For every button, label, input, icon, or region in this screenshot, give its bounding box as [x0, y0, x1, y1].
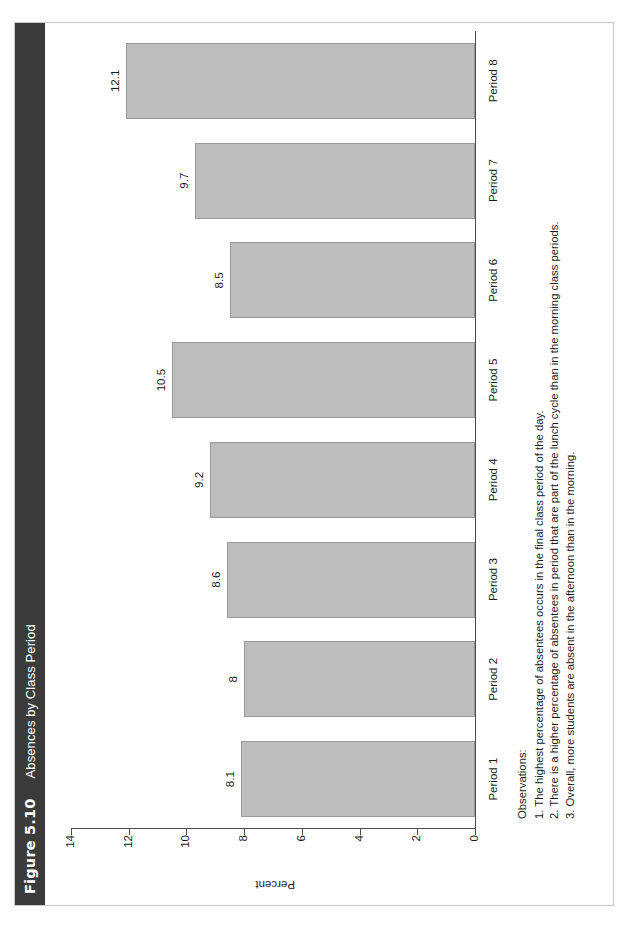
y-tick-label: 4 — [354, 835, 366, 841]
y-tick-mark — [244, 829, 245, 835]
chart-plot-area: Percent 02468101214 8.1Period 18Period 2… — [45, 23, 613, 905]
bar[interactable] — [210, 442, 475, 518]
x-category-label: Period 8 — [487, 59, 499, 102]
y-tick-mark — [71, 829, 72, 835]
page-canvas: Figure 5.10 Absences by Class Period Per… — [0, 0, 629, 926]
y-tick-label: 12 — [123, 835, 135, 848]
figure-title: Absences by Class Period — [23, 624, 38, 778]
x-category-label: Period 3 — [487, 558, 499, 601]
y-tick-mark — [360, 829, 361, 835]
y-tick-mark — [302, 829, 303, 835]
x-category-label: Period 2 — [487, 658, 499, 701]
x-category-label: Period 7 — [487, 159, 499, 202]
bar-value-label: 10.5 — [155, 369, 167, 391]
rotated-figure-container: Figure 5.10 Absences by Class Period Per… — [15, 23, 613, 905]
y-tick-mark — [417, 829, 418, 835]
y-tick-label: 8 — [238, 835, 250, 841]
bar[interactable] — [126, 43, 475, 119]
observation-item: 1. The highest percentage of absentees o… — [532, 59, 548, 819]
y-tick-label: 0 — [469, 835, 481, 841]
bar[interactable] — [241, 741, 475, 817]
y-tick-label: 10 — [181, 835, 193, 848]
x-category-label: Period 1 — [487, 758, 499, 801]
bar-value-label: 9.7 — [178, 173, 190, 189]
bar[interactable] — [172, 342, 475, 418]
y-axis-tick-marks — [45, 829, 613, 835]
y-axis-label: Percent — [255, 879, 295, 891]
y-tick-label: 14 — [65, 835, 77, 848]
bar-value-label: 8.1 — [224, 771, 236, 787]
observations-block: Observations: 1. The highest percentage … — [515, 59, 578, 819]
bar-value-label: 12.1 — [109, 70, 121, 92]
figure-sheet: Figure 5.10 Absences by Class Period Per… — [14, 22, 614, 906]
bar-value-label: 8 — [227, 676, 239, 682]
x-category-label: Period 6 — [487, 259, 499, 302]
bar[interactable] — [195, 143, 475, 219]
figure-number: Figure 5.10 — [22, 798, 38, 894]
bar[interactable] — [244, 641, 475, 717]
y-tick-label: 6 — [296, 835, 308, 841]
y-tick-mark — [475, 829, 476, 835]
observation-item: 2. There is a higher percentage of absen… — [547, 59, 563, 819]
observation-item: 3. Overall, more students are absent in … — [563, 59, 579, 819]
x-category-label: Period 5 — [487, 359, 499, 402]
y-tick-label: 2 — [412, 835, 424, 841]
bar-value-label: 8.6 — [210, 572, 222, 588]
bar[interactable] — [230, 242, 475, 318]
observations-heading: Observations: — [515, 59, 531, 819]
bar-value-label: 9.2 — [193, 472, 205, 488]
bar-value-label: 8.5 — [213, 272, 225, 288]
y-tick-mark — [129, 829, 130, 835]
figure-title-bar: Figure 5.10 Absences by Class Period — [15, 23, 45, 905]
y-axis-tick-labels: 02468101214 — [45, 835, 613, 861]
bar[interactable] — [227, 542, 475, 618]
x-category-label: Period 4 — [487, 458, 499, 501]
y-tick-mark — [186, 829, 187, 835]
